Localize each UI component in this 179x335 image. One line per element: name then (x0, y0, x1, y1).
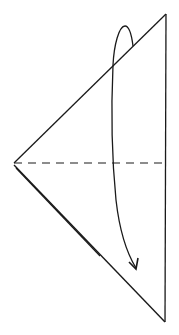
origami-fold-diagram (0, 0, 179, 335)
background (0, 0, 179, 335)
